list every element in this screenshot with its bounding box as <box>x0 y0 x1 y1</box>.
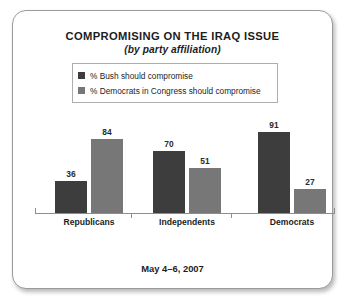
bar-value-label: 27 <box>295 177 325 187</box>
bar <box>258 132 290 213</box>
bar-value-label: 70 <box>154 139 184 149</box>
chart-subtitle: (by party affiliation) <box>13 43 332 57</box>
chart-card: COMPROMISING ON THE IRAQ ISSUE (by party… <box>12 10 333 289</box>
legend-item: % Democrats in Congress should compromis… <box>78 83 271 98</box>
legend-item-label: % Bush should compromise <box>90 71 193 81</box>
bar-value-label: 84 <box>92 127 122 137</box>
category-label: Independents <box>127 217 247 227</box>
bar <box>294 189 326 213</box>
legend-swatch-icon <box>78 72 85 79</box>
bar-value-label: 91 <box>259 120 289 130</box>
category-label: Democrats <box>232 217 348 227</box>
axis-tick-end <box>334 208 335 213</box>
x-axis-line <box>35 213 335 214</box>
bar <box>189 168 221 213</box>
bar <box>153 151 185 213</box>
chart-legend: % Bush should compromise % Democrats in … <box>72 63 278 103</box>
footer-note: May 4–6, 2007 <box>13 263 332 274</box>
bar <box>55 181 87 213</box>
legend-item-label: % Democrats in Congress should compromis… <box>90 86 261 96</box>
page-title: COMPROMISING ON THE IRAQ ISSUE <box>13 29 332 43</box>
bar-value-label: 36 <box>56 169 86 179</box>
title-block: COMPROMISING ON THE IRAQ ISSUE (by party… <box>13 29 332 57</box>
legend-item: % Bush should compromise <box>78 68 271 83</box>
axis-tick-start <box>35 208 36 213</box>
legend-swatch-icon <box>78 87 85 94</box>
bar <box>91 139 123 213</box>
bar-value-label: 51 <box>190 156 220 166</box>
chart-image: COMPROMISING ON THE IRAQ ISSUE (by party… <box>0 0 348 303</box>
